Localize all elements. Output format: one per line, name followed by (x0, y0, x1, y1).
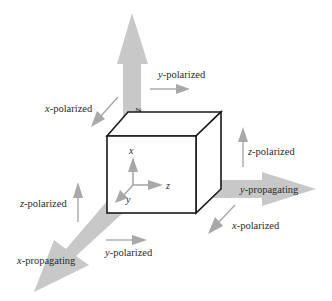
right-z-polarized: z-polarized (238, 127, 295, 167)
y-propagating-label: y-propagating (239, 184, 299, 195)
right-x-polarized: x-polarized (208, 205, 280, 234)
right-x-polarized-label: x-polarized (231, 220, 280, 231)
top-x-polarized-label: x-polarized (44, 103, 93, 114)
diagram-canvas: z-propagating x z y y-pol (0, 0, 332, 301)
top-y-polarized-label: y-polarized (157, 69, 206, 80)
cube-front-face (107, 136, 196, 213)
y-axis-label: y (125, 194, 131, 205)
x-propagating-arrow (34, 200, 124, 292)
x-propagating-label: x-propagating (16, 255, 76, 266)
top-y-polarized: y-polarized (150, 69, 206, 94)
left-z-polarized: z-polarized (19, 182, 83, 222)
bottom-y-polarized: y-polarized (104, 235, 153, 258)
left-z-polarized-label: z-polarized (19, 198, 67, 209)
top-x-polarized: x-polarized (44, 97, 118, 127)
right-z-polarized-label: z-polarized (247, 146, 295, 157)
z-axis-label: z (165, 180, 170, 191)
x-axis-label: x (128, 145, 134, 156)
bottom-y-polarized-label: y-polarized (104, 247, 153, 258)
